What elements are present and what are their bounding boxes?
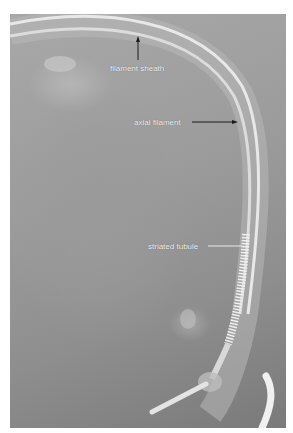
label-filament-sheath: filament sheath (110, 64, 164, 73)
debris (180, 309, 196, 329)
micrograph-photo: filament sheath axial filament striated … (10, 14, 286, 428)
label-axial-filament: axial filament (134, 118, 181, 127)
debris (44, 56, 76, 72)
label-striated-tubule: striated tubule (148, 242, 198, 251)
sheath-band (10, 24, 256, 414)
fragment-diagonal (152, 384, 206, 412)
fragment-curved (262, 376, 271, 428)
filament-structure (10, 14, 286, 428)
